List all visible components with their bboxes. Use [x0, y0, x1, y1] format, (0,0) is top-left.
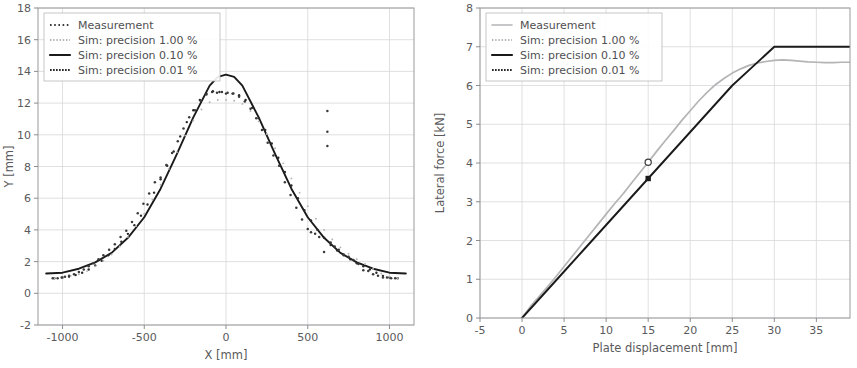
y-tick-label: 4 — [24, 224, 31, 237]
data-point — [356, 258, 358, 260]
data-point — [326, 145, 329, 148]
y-tick-label: 5 — [466, 118, 473, 131]
data-point — [111, 254, 113, 256]
data-point — [250, 110, 252, 112]
data-point — [348, 253, 350, 255]
data-point — [94, 265, 96, 267]
data-point — [221, 91, 224, 94]
data-point — [81, 271, 83, 273]
data-point — [333, 245, 336, 248]
data-point — [377, 275, 380, 278]
x-tick-label: -5 — [475, 324, 486, 337]
data-point — [179, 135, 181, 137]
data-point — [290, 177, 292, 179]
data-point — [159, 176, 162, 179]
data-point — [295, 206, 298, 209]
data-point — [209, 101, 211, 103]
x-tick-label: 20 — [683, 324, 697, 337]
legend: MeasurementSim: precision 1.00 %Sim: pre… — [486, 13, 662, 81]
data-point — [274, 147, 276, 149]
x-tick-label: 30 — [767, 324, 781, 337]
data-point — [146, 203, 148, 205]
x-axis-title: Plate displacement [mm] — [593, 341, 738, 355]
x-tick-label: 5 — [561, 324, 568, 337]
y-tick-label: 6 — [466, 80, 473, 93]
data-point — [188, 116, 191, 119]
data-point — [301, 218, 304, 221]
right-plot-svg: -505101520253035012345678Plate displacem… — [430, 0, 857, 368]
data-point — [120, 241, 122, 243]
y-axis-title: Lateral force [kN] — [433, 113, 447, 214]
data-point — [372, 273, 375, 276]
data-point — [107, 254, 109, 256]
data-point — [102, 254, 105, 257]
data-point — [86, 270, 88, 272]
data-point — [316, 229, 318, 231]
data-point — [266, 141, 269, 144]
data-point — [372, 268, 374, 270]
data-point — [171, 152, 174, 155]
data-point — [357, 263, 360, 266]
series-line-sim-precision-0-10- — [522, 47, 850, 318]
x-tick-label: 0 — [519, 324, 526, 337]
data-point — [326, 110, 329, 113]
data-point — [315, 218, 317, 220]
data-point — [153, 191, 155, 193]
data-point — [282, 162, 284, 164]
data-point — [244, 100, 247, 103]
data-point — [125, 229, 128, 232]
data-point — [339, 246, 341, 248]
data-point — [64, 275, 67, 278]
data-point — [394, 277, 397, 280]
y-tick-label: 18 — [17, 2, 31, 15]
data-point — [131, 221, 134, 224]
y-tick-label: 0 — [24, 287, 31, 300]
x-tick-label: 35 — [809, 324, 823, 337]
data-point — [258, 117, 260, 119]
legend-entry-label: Measurement — [520, 19, 596, 32]
data-point — [56, 277, 59, 280]
data-point — [386, 276, 389, 279]
x-tick-label: 1000 — [375, 331, 403, 344]
data-point — [347, 256, 350, 259]
data-point — [255, 117, 258, 120]
data-point — [165, 164, 168, 167]
data-point — [226, 92, 229, 95]
data-point — [241, 103, 243, 105]
data-point — [78, 271, 81, 274]
x-tick-label: 10 — [599, 324, 613, 337]
y-tick-label: 4 — [466, 157, 473, 170]
data-point — [342, 253, 345, 256]
data-point — [51, 277, 54, 280]
data-point — [160, 184, 162, 186]
data-point — [225, 99, 227, 101]
data-point — [329, 241, 332, 244]
data-point — [176, 151, 178, 153]
data-point — [258, 120, 260, 122]
data-point — [329, 244, 331, 246]
data-point — [78, 273, 80, 275]
y-tick-label: 6 — [24, 192, 31, 205]
data-point — [232, 92, 235, 95]
force-displacement-plot: -505101520253035012345678Plate displacem… — [430, 0, 857, 368]
data-point — [271, 142, 273, 144]
data-point — [148, 192, 151, 195]
data-point — [323, 237, 325, 239]
data-point — [382, 276, 385, 279]
data-point — [297, 197, 299, 199]
data-point — [307, 205, 309, 207]
y-axis-title: Y [mm] — [2, 145, 16, 188]
data-point — [127, 236, 129, 238]
data-point — [318, 236, 321, 239]
data-point — [201, 108, 203, 110]
data-point — [397, 277, 399, 279]
data-point — [60, 276, 63, 279]
figure-container: -1000-50005001000-2024681012141618X [mm]… — [0, 0, 857, 368]
data-point — [108, 248, 111, 251]
legend-entry-label: Sim: precision 0.10 % — [78, 49, 198, 62]
x-tick-label: -500 — [132, 331, 157, 344]
data-point — [205, 93, 208, 96]
data-point — [192, 120, 194, 122]
data-point — [119, 246, 121, 248]
data-point — [199, 99, 202, 102]
